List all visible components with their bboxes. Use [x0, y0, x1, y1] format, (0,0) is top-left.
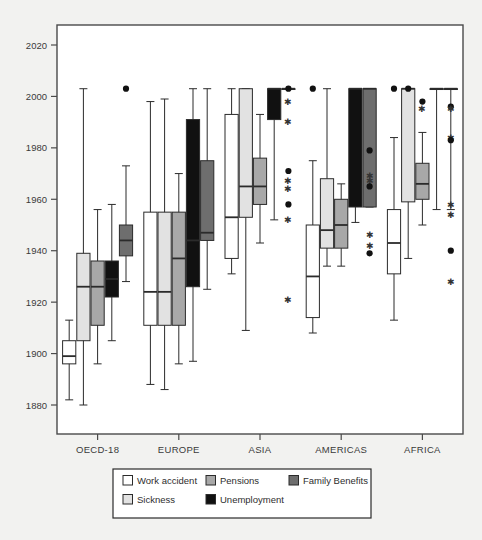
outlier-dot [285, 86, 291, 92]
legend-label-family-benefits: Family Benefits [303, 475, 368, 486]
box-rect [306, 225, 319, 318]
box-rect [349, 89, 362, 207]
outlier-asterisk: ✱ [284, 215, 292, 225]
legend: Work accidentPensionsFamily BenefitsSick… [113, 469, 371, 518]
outlier-asterisk: ✱ [366, 230, 374, 240]
outlier-dot [285, 201, 291, 207]
box-asia-work-accident [225, 89, 238, 274]
outlier-asterisk: ✱ [418, 104, 426, 114]
y-tick-label: 2020 [26, 40, 47, 51]
box-rect [320, 179, 333, 248]
x-tick-label-africa: AFRICA [404, 444, 441, 455]
legend-label-sickness: Sickness [137, 494, 175, 505]
legend-label-unemployment: Unemployment [220, 494, 284, 505]
y-tick-label: 1900 [26, 348, 47, 359]
outlier-dot [405, 86, 411, 92]
outlier-dot [448, 137, 454, 143]
outlier-asterisk: ✱ [284, 117, 292, 127]
outlier-dot [367, 147, 373, 153]
outlier-asterisk: ✱ [366, 241, 374, 251]
x-tick-label-oecd-18: OECD-18 [76, 444, 119, 455]
box-americas-unemployment [349, 89, 362, 223]
box-rect [186, 120, 199, 287]
outlier-dot [310, 86, 316, 92]
legend-swatch-work-accident [123, 476, 133, 486]
y-tick-label: 1880 [26, 400, 47, 411]
outlier-asterisk: ✱ [447, 210, 455, 220]
box-rect [268, 89, 281, 120]
y-axis: 18801900192019401960198020002020 [26, 40, 57, 411]
box-rect [144, 212, 157, 325]
outlier-asterisk: ✱ [447, 277, 455, 287]
box-rect [172, 212, 185, 325]
legend-label-pensions: Pensions [220, 475, 259, 486]
figure-canvas: 18801900192019401960198020002020✱✱✱✱✱✱✱✱… [0, 0, 482, 540]
outlier-dot [391, 86, 397, 92]
x-tick-label-asia: ASIA [249, 444, 272, 455]
legend-swatch-sickness [123, 495, 133, 505]
outlier-asterisk: ✱ [447, 104, 455, 114]
y-tick-label: 2000 [26, 91, 47, 102]
y-tick-label: 1960 [26, 194, 47, 205]
box-rect [77, 253, 90, 340]
box-rect [402, 89, 415, 202]
outlier-dot [285, 168, 291, 174]
y-tick-label: 1920 [26, 297, 47, 308]
y-tick-label: 1940 [26, 245, 47, 256]
box-rect [63, 341, 76, 364]
legend-swatch-family-benefits [289, 476, 299, 486]
outlier-dot [448, 248, 454, 254]
y-tick-label: 1980 [26, 142, 47, 153]
x-axis: OECD-18EUROPEASIAAMERICASAFRICA [76, 434, 441, 455]
legend-label-work-accident: Work accident [137, 475, 197, 486]
box-rect [335, 199, 348, 248]
outlier-asterisk: ✱ [284, 295, 292, 305]
x-tick-label-americas: AMERICAS [315, 444, 367, 455]
box-rect [158, 212, 171, 325]
box-rect [239, 89, 252, 218]
outlier-asterisk: ✱ [284, 184, 292, 194]
box-rect [201, 161, 214, 241]
legend-swatch-pensions [206, 476, 216, 486]
outlier-asterisk: ✱ [284, 97, 292, 107]
outlier-asterisk: ✱ [447, 200, 455, 210]
box-rect [91, 261, 104, 325]
box-rect [387, 210, 400, 274]
x-tick-label-europe: EUROPE [158, 444, 200, 455]
box-rect [253, 158, 266, 204]
legend-swatch-unemployment [206, 495, 216, 505]
outlier-dot [123, 86, 129, 92]
box-rect [225, 114, 238, 258]
outlier-dot [367, 183, 373, 189]
box-plot-chart: 18801900192019401960198020002020✱✱✱✱✱✱✱✱… [0, 0, 482, 540]
outlier-dot [367, 250, 373, 256]
box-rect [416, 163, 429, 199]
